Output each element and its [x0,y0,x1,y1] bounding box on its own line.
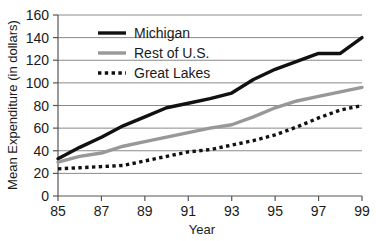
x-tick-label: 97 [311,203,327,219]
legend-label-1: Michigan [134,25,190,41]
x-axis-title: Year [189,222,216,237]
y-tick-label: 120 [26,52,50,68]
legend-label-2: Rest of U.S. [134,45,209,61]
x-tick-label: 91 [180,203,196,219]
x-tick-label: 89 [137,203,153,219]
chart-canvas: 020406080100120140160 8587899193959799 M… [0,0,376,241]
y-tick-label: 140 [26,30,50,46]
x-tick-label: 93 [224,203,240,219]
x-tick-label: 99 [354,203,370,219]
expenditure-line-chart: 020406080100120140160 8587899193959799 M… [0,0,376,241]
x-tick-label: 85 [50,203,66,219]
y-tick-label: 20 [33,165,49,181]
y-tick-label: 160 [26,7,50,23]
x-tick-label: 87 [94,203,110,219]
legend-label-3: Great Lakes [134,65,210,81]
y-tick-label: 40 [33,143,49,159]
y-tick-label: 100 [26,75,50,91]
y-tick-label: 60 [33,120,49,136]
y-tick-label: 80 [33,98,49,114]
x-tick-label: 95 [267,203,283,219]
y-axis-title: Mean Expenditure (in dollars) [5,20,20,190]
y-tick-label: 0 [41,188,49,204]
